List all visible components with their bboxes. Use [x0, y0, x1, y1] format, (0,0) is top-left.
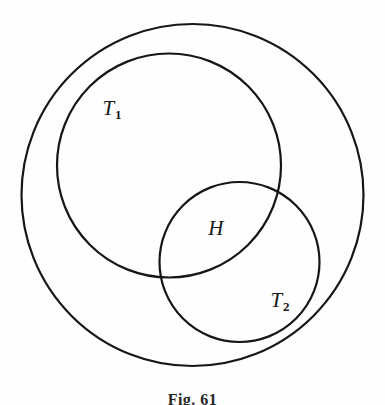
label-h-base: H [208, 216, 223, 240]
figure-caption: Fig. 61 [0, 391, 385, 405]
label-t1-subscript: 1 [115, 106, 122, 121]
label-t2-subscript: 2 [283, 298, 290, 313]
outer-circle [22, 24, 364, 366]
label-h: H [208, 218, 223, 239]
label-t2-base: T [271, 288, 283, 312]
figure-container: T1 H T2 Fig. 61 [0, 0, 385, 405]
label-t1: T1 [103, 98, 122, 121]
label-t2: T2 [271, 290, 290, 313]
circle-t2 [160, 182, 320, 342]
label-t1-base: T [103, 96, 115, 120]
circle-t1 [57, 54, 281, 278]
venn-diagram [0, 0, 385, 405]
